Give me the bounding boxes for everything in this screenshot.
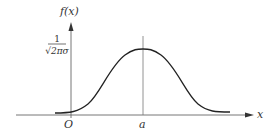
origin-label: O (64, 119, 73, 130)
mean-label: a (139, 119, 146, 130)
y-axis-arrow-icon (69, 22, 74, 31)
normal-distribution-diagram: f(x) x O a 1 √2πσ (0, 0, 268, 137)
x-axis-arrow-icon (245, 113, 254, 118)
peak-numerator: 1 (48, 34, 66, 44)
diagram-canvas (0, 0, 268, 137)
peak-denominator: √2πσ (43, 46, 71, 56)
x-axis-label: x (257, 109, 263, 120)
y-axis-label: f(x) (60, 6, 79, 17)
density-curve (55, 49, 230, 113)
